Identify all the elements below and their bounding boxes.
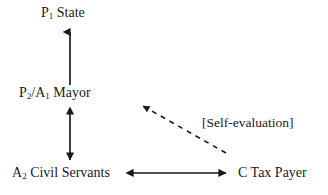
diagram-canvas: P1 State P2/A1 Mayor A2 Civil Servants C… [0,0,328,195]
mayor-node-subscript2: 1 [45,91,50,101]
state-node-label: State [53,5,85,20]
civil-servants-node-prefix: A [12,165,22,180]
mayor-node-label: Mayor [50,85,91,100]
civil-servants-node-subscript: 2 [22,171,27,181]
state-node: P1 State [41,6,85,20]
mayor-node-mid: /A [31,85,45,100]
civil-servants-node-label: Civil Servants [27,165,110,180]
mayor-node: P2/A1 Mayor [19,86,91,100]
tax-payer-node-label: C Tax Payer [238,165,307,180]
state-node-subscript: 1 [49,11,54,21]
civil-servants-node: A2 Civil Servants [12,166,110,180]
state-node-prefix: P [41,5,49,20]
mayor-node-subscript: 2 [27,91,32,101]
mayor-node-prefix: P [19,85,27,100]
self-evaluation-annotation: [Self-evaluation] [202,116,293,130]
tax-payer-node: C Tax Payer [238,166,307,180]
